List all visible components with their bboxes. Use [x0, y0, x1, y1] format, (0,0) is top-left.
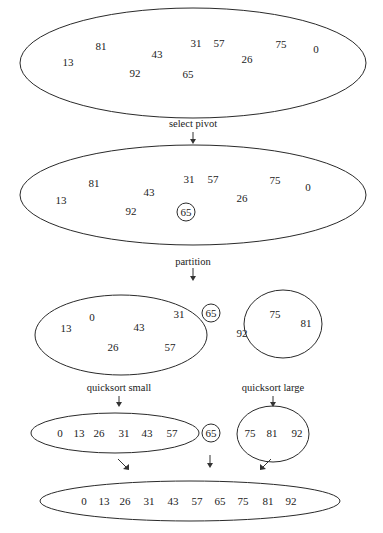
diagonal-arrow-icon [118, 459, 129, 470]
set-value: 0 [305, 181, 311, 193]
input-value: 92 [130, 67, 141, 79]
quicksort-large-label: quicksort large [242, 382, 305, 393]
set-value: 13 [56, 194, 68, 206]
pivot-selected-set: 81 31 57 75 0 43 13 26 92 65 [20, 145, 366, 245]
down-arrow-icon [116, 396, 122, 407]
down-arrow-icon [270, 396, 276, 407]
result-value: 65 [215, 495, 227, 507]
pivot-ellipse [20, 145, 366, 245]
set-value: 31 [184, 173, 195, 185]
set-value: 26 [237, 192, 249, 204]
select-pivot-label: select pivot [169, 118, 217, 129]
input-value: 31 [191, 37, 202, 49]
small-value: 26 [108, 341, 120, 353]
small-value: 13 [61, 322, 73, 334]
pivot-value: 65 [206, 427, 218, 439]
input-value: 13 [63, 56, 75, 68]
result-value: 0 [81, 495, 87, 507]
large-value: 81 [301, 317, 312, 329]
result-value: 92 [286, 495, 297, 507]
down-arrow-icon [190, 268, 196, 281]
input-value: 0 [313, 43, 319, 55]
input-value: 75 [276, 38, 288, 50]
down-arrow-icon [207, 455, 213, 468]
result-value: 57 [192, 495, 204, 507]
quicksort-diagram: 81 31 57 75 0 43 13 26 92 65 select pivo… [0, 0, 383, 533]
partition-label: partition [175, 256, 211, 267]
partition-large-set: 75 81 92 [237, 290, 323, 358]
small-value: 43 [134, 321, 146, 333]
sorted-large-value: 81 [267, 427, 278, 439]
input-set: 81 31 57 75 0 43 13 26 92 65 [20, 8, 366, 118]
set-value: 92 [126, 205, 137, 217]
result-value: 26 [120, 495, 132, 507]
input-value: 81 [96, 40, 107, 52]
input-value: 26 [242, 53, 254, 65]
sorted-small-value: 57 [167, 427, 179, 439]
sorted-small-value: 43 [142, 427, 154, 439]
sorted-large-set: 75 81 92 [237, 406, 309, 462]
input-value: 43 [152, 48, 164, 60]
sorted-pivot: 65 [202, 424, 220, 442]
input-value: 57 [214, 37, 226, 49]
sorted-small-value: 31 [119, 427, 130, 439]
quicksort-small-label: quicksort small [87, 382, 152, 393]
result-value: 75 [238, 495, 250, 507]
pivot-value: 65 [206, 307, 218, 319]
small-value: 57 [165, 341, 177, 353]
set-value: 75 [270, 174, 282, 186]
small-value: 31 [174, 308, 185, 320]
result-value: 13 [99, 495, 111, 507]
sorted-small-set: 0 13 26 31 43 57 [31, 413, 199, 453]
result-value: 81 [263, 495, 274, 507]
set-value: 81 [89, 177, 100, 189]
sorted-small-value: 0 [57, 427, 63, 439]
sorted-large-value: 75 [245, 427, 257, 439]
large-value: 75 [270, 308, 282, 320]
set-value: 57 [208, 173, 220, 185]
sorted-small-value: 26 [94, 427, 106, 439]
large-value: 92 [237, 327, 248, 339]
input-value: 65 [183, 68, 195, 80]
result-set: 0 13 26 31 43 57 65 75 81 92 [40, 481, 340, 521]
sorted-small-value: 13 [74, 427, 86, 439]
pivot-value: 65 [181, 206, 193, 218]
set-value: 43 [144, 186, 156, 198]
result-value: 43 [168, 495, 180, 507]
down-arrow-icon [190, 132, 196, 144]
small-value: 0 [89, 311, 95, 323]
result-value: 31 [144, 495, 155, 507]
partition-small-set: 0 31 13 43 26 57 [35, 295, 207, 375]
partition-pivot: 65 [202, 304, 220, 322]
sorted-large-value: 92 [292, 427, 303, 439]
